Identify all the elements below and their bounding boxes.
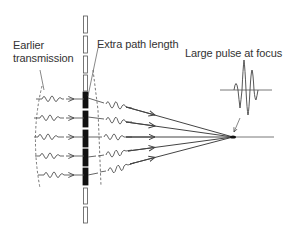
zone-plate-opaque-zone xyxy=(83,111,88,127)
zone-plate-open-slot xyxy=(84,75,88,91)
outgoing-wave-packet xyxy=(88,134,132,140)
zone-plate-open-slot xyxy=(84,188,88,204)
zone-plate-open-slot xyxy=(84,36,88,53)
incoming-waves xyxy=(34,96,84,178)
converging-ray-arrow xyxy=(128,147,155,151)
outgoing-wave-packet xyxy=(88,117,132,124)
label-earlier-transmission: Earlier transmission xyxy=(13,39,74,65)
zone-plate-opaque-zone xyxy=(83,168,88,185)
label-large-pulse-at-focus: Large pulse at focus xyxy=(185,47,282,60)
converging-ray-arrow xyxy=(130,157,155,164)
label-extra-path-length: Extra path length xyxy=(97,38,178,51)
zone-plate-open-slot xyxy=(84,207,88,223)
zone-plate xyxy=(83,16,88,223)
fresnel-zone-plate-diagram xyxy=(0,0,288,234)
incoming-wave-packet xyxy=(34,134,64,140)
outgoing-wave-packet xyxy=(88,163,134,175)
zone-plate-open-slot xyxy=(84,56,88,73)
incoming-wave-packet xyxy=(36,96,64,102)
label-earlier-line1: Earlier xyxy=(13,39,74,52)
incoming-wave-packet xyxy=(35,153,64,159)
zone-plate-opaque-zone xyxy=(83,149,88,166)
large-pulse-waveform xyxy=(234,60,258,115)
zone-plate-opaque-zone xyxy=(83,130,88,147)
converging-ray-arrow xyxy=(126,122,155,126)
extra-path-dashed-line xyxy=(93,70,101,186)
zone-plate-opaque-zone xyxy=(83,92,88,108)
zone-plate-open-slot xyxy=(84,16,88,33)
focus-point xyxy=(230,135,236,138)
label-earlier-line2: transmission xyxy=(13,52,74,65)
converging-rays xyxy=(126,107,233,164)
converging-ray-arrow xyxy=(126,107,155,115)
incoming-wave-packet xyxy=(38,172,66,178)
extra-path-leader xyxy=(88,48,98,96)
outgoing-wave-packet xyxy=(88,150,132,157)
pulse-leader-arrow xyxy=(234,118,240,132)
outgoing-wave-packet xyxy=(88,98,132,109)
incoming-wave-packet xyxy=(34,115,64,121)
